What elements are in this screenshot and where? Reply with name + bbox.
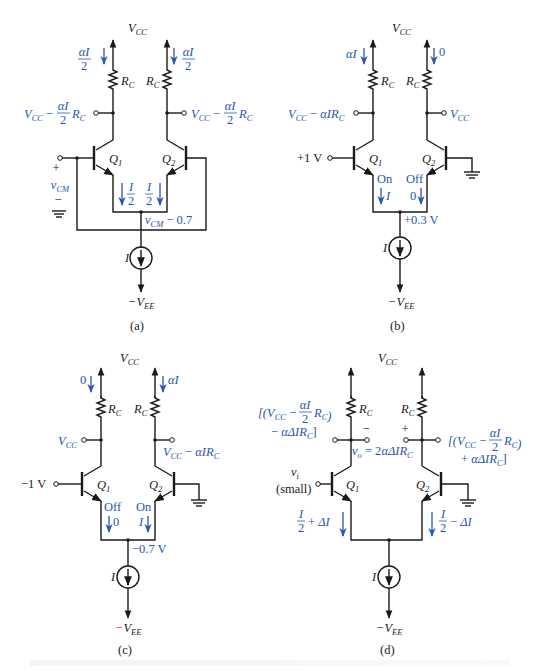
svg-text:− αΔIRC]: − αΔIRC] [271, 425, 317, 441]
svg-text:−0.7 V: −0.7 V [132, 542, 167, 556]
svg-text:Q1: Q1 [97, 478, 110, 494]
svg-text:I: I [382, 241, 388, 255]
svg-text:[(VCC −: [(VCC − [258, 406, 296, 422]
svg-text:I: I [138, 515, 144, 529]
svg-text:2: 2 [298, 521, 304, 535]
svg-text:2: 2 [185, 59, 191, 73]
circuit-figure: VCC RC RC αI 2 αI 2 VCC − αI 2 RC VCC − … [0, 0, 541, 671]
svg-text:αI: αI [300, 398, 312, 412]
svg-text:2: 2 [302, 412, 308, 426]
svg-text:RC: RC [71, 107, 86, 123]
panel-a: VCC RC RC αI 2 αI 2 VCC − αI 2 RC VCC − … [24, 21, 253, 333]
panel-d-caption: (d) [380, 643, 395, 657]
svg-text:2: 2 [128, 194, 134, 208]
svg-text:0: 0 [410, 189, 416, 203]
svg-text:Q1: Q1 [346, 478, 359, 494]
svg-text:2: 2 [81, 59, 87, 73]
svg-text:I: I [440, 507, 446, 521]
svg-text:RC): RC) [313, 406, 331, 423]
svg-text:On: On [136, 500, 152, 514]
svg-text:αI: αI [225, 99, 237, 113]
svg-text:RC: RC [238, 107, 253, 123]
panel-b-input: +1 V [297, 151, 322, 165]
svg-text:2: 2 [146, 194, 152, 208]
svg-text:− ΔI: − ΔI [450, 515, 473, 529]
svg-text:VCC: VCC [392, 21, 411, 37]
svg-text:αI: αI [183, 45, 195, 59]
svg-text:αI: αI [490, 426, 502, 440]
panel-d: VCC RC RC [(VCC − αI 2 RC) − αΔIRC] − + … [258, 351, 521, 657]
svg-text:Q2: Q2 [416, 478, 430, 494]
panel-c-input: −1 V [21, 477, 46, 491]
svg-text:Q1: Q1 [109, 152, 122, 168]
svg-text:−VEE: −VEE [128, 295, 155, 311]
panel-c-caption: (c) [118, 643, 132, 657]
svg-text:RC): RC) [503, 434, 521, 451]
svg-text:I: I [371, 570, 377, 584]
emitter-node-voltage: +0.3 V [404, 213, 439, 227]
svg-text:VCC: VCC [378, 351, 397, 367]
svg-text:VCC: VCC [58, 434, 77, 450]
panel-b-caption: (b) [390, 319, 405, 333]
svg-text:Q2: Q2 [162, 152, 176, 168]
rc-right: RC [145, 74, 160, 90]
svg-text:vo = 2αΔIRC: vo = 2αΔIRC [352, 444, 413, 460]
svg-text:RC: RC [405, 74, 420, 90]
svg-text:I: I [146, 180, 152, 194]
svg-text:+: + [52, 161, 59, 175]
svg-text:RC: RC [400, 402, 415, 418]
svg-text:αI: αI [58, 99, 70, 113]
panel-a-caption: (a) [130, 319, 144, 333]
svg-text:I: I [110, 570, 116, 584]
svg-text:Off: Off [104, 500, 122, 514]
svg-text:−: − [362, 422, 369, 436]
q1-state: On [377, 172, 393, 186]
svg-text:I: I [298, 507, 304, 521]
svg-text:2: 2 [60, 113, 66, 127]
svg-text:−VEE: −VEE [388, 295, 415, 311]
q2-state: Off [406, 172, 424, 186]
svg-text:VCC −: VCC − [191, 107, 220, 123]
rc-left: RC [120, 74, 135, 90]
svg-text:−: − [54, 193, 61, 207]
svg-text:Q1: Q1 [369, 152, 382, 168]
svg-text:VCC −: VCC − [24, 107, 53, 123]
svg-text:RC: RC [107, 402, 122, 418]
svg-text:I: I [128, 180, 134, 194]
svg-text:+ ΔI: + ΔI [308, 515, 331, 529]
svg-text:RC: RC [358, 402, 373, 418]
svg-text:vCM − 0.7: vCM − 0.7 [145, 213, 192, 229]
svg-text:−VEE: −VEE [115, 621, 142, 637]
svg-text:αI: αI [168, 373, 180, 387]
panel-c: VCC RC RC 0 αI VCC VCC − αIRC Q1 Q2 −1 V [21, 351, 220, 657]
svg-text:[(VCC −: [(VCC − [448, 434, 486, 450]
vcc-label: VCC [128, 21, 147, 37]
svg-text:0: 0 [113, 515, 119, 529]
svg-text:Q2: Q2 [422, 152, 436, 168]
svg-text:0: 0 [80, 373, 86, 387]
svg-text:VCC − αIRC: VCC − αIRC [163, 445, 220, 461]
input-note: (small) [276, 482, 311, 496]
svg-text:2: 2 [227, 113, 233, 127]
svg-text:2: 2 [440, 521, 446, 535]
svg-text:Q2: Q2 [149, 478, 163, 494]
svg-text:RC: RC [380, 74, 395, 90]
panel-b: VCC RC RC αI 0 VCC − αIRC VCC Q1 Q2 +1 V [288, 21, 480, 333]
svg-text:RC: RC [133, 402, 148, 418]
panel-b-right-current: 0 [439, 45, 445, 59]
svg-text:VCC − αIRC: VCC − αIRC [288, 107, 345, 123]
svg-text:αI: αI [79, 45, 91, 59]
figure-caption-faded [30, 660, 510, 666]
svg-text:vi: vi [291, 465, 300, 481]
svg-text:I: I [124, 251, 130, 265]
svg-text:VCC: VCC [450, 107, 469, 123]
svg-text:+: + [401, 422, 408, 436]
svg-text:+ αΔIRC]: + αΔIRC] [461, 452, 507, 468]
svg-text:VCC: VCC [120, 351, 139, 367]
svg-text:I: I [385, 189, 391, 203]
svg-text:−VEE: −VEE [376, 621, 403, 637]
svg-text:vCM: vCM [51, 178, 70, 194]
panel-b-left-current: αI [346, 47, 358, 61]
